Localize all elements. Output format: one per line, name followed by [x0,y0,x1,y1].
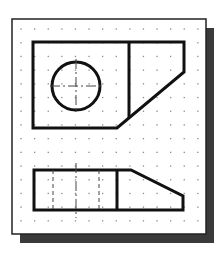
grid-dot [116,220,117,221]
grid-dot [170,165,171,166]
grid-dot [197,111,198,112]
grid-dot [20,83,21,84]
grid-dot [197,83,198,84]
grid-dot [156,124,157,125]
grid-dot [197,207,198,208]
grid-dot [156,138,157,139]
grid-dot [61,124,62,125]
grid-dot [61,193,62,194]
grid-dot [20,111,21,112]
grid-dot [156,152,157,153]
grid-dot [143,220,144,221]
grid-dot [197,42,198,43]
grid-dot [156,70,157,71]
grid-dot [184,179,185,180]
grid-dot [88,83,89,84]
grid-dot [48,124,49,125]
grid-dot [48,165,49,166]
grid-dot [143,111,144,112]
grid-dot [75,220,76,221]
grid-dot [143,193,144,194]
grid-dot [143,28,144,29]
grid-dot [143,179,144,180]
grid-dot [184,28,185,29]
grid-dot [156,207,157,208]
grid-dot [197,28,198,29]
grid-dot [129,179,130,180]
grid-dot [61,165,62,166]
grid-dot [61,179,62,180]
grid-dot [88,179,89,180]
grid-dot [34,165,35,166]
grid-dot [20,220,21,221]
grid-dot [20,207,21,208]
grid-dot [197,70,198,71]
grid-dot [184,220,185,221]
grid-dot [143,124,144,125]
grid-dot [48,207,49,208]
grid-dot [170,111,171,112]
grid-dot [61,83,62,84]
grid-dot [61,28,62,29]
grid-dot [20,165,21,166]
grid-dot [197,138,198,139]
grid-dot [184,138,185,139]
grid-dot [170,97,171,98]
grid-dot [184,165,185,166]
grid-dot [102,193,103,194]
grid-dot [61,138,62,139]
grid-dot [116,97,117,98]
grid-dot [75,56,76,57]
grid-dot [129,207,130,208]
grid-dot [20,124,21,125]
grid-dot [170,124,171,125]
grid-dot [88,124,89,125]
grid-dot [116,70,117,71]
grid-dot [88,28,89,29]
grid-dot [102,28,103,29]
grid-dot [61,207,62,208]
grid-dot [88,193,89,194]
grid-dot [197,124,198,125]
grid-dot [20,179,21,180]
grid-dot [143,56,144,57]
grid-dot [184,111,185,112]
grid-dot [102,70,103,71]
grid-dot [48,97,49,98]
grid-dot [48,70,49,71]
grid-dot [48,152,49,153]
grid-dot [116,83,117,84]
grid-dot [143,70,144,71]
grid-dot [48,193,49,194]
grid-dot [88,111,89,112]
grid-dot [197,220,198,221]
grid-dot [102,207,103,208]
grid-dot [48,220,49,221]
grid-dot [75,138,76,139]
grid-dot [116,56,117,57]
grid-dot [88,165,89,166]
grid-dot [116,165,117,166]
grid-dot [197,56,198,57]
grid-dot [20,28,21,29]
grid-dot [61,220,62,221]
grid-dot [48,111,49,112]
grid-dot [129,28,130,29]
grid-dot [88,56,89,57]
grid-dot [129,124,130,125]
grid-dot [34,152,35,153]
grid-dot [129,193,130,194]
grid-dot [20,97,21,98]
grid-dot [88,152,89,153]
grid-dot [102,97,103,98]
grid-dot [20,42,21,43]
grid-dot [116,124,117,125]
grid-dot [170,70,171,71]
grid-dot [156,220,157,221]
grid-dot [170,138,171,139]
grid-dot [197,165,198,166]
grid-dot [156,97,157,98]
grid-dot [197,152,198,153]
grid-dot [116,152,117,153]
grid-dot [34,28,35,29]
